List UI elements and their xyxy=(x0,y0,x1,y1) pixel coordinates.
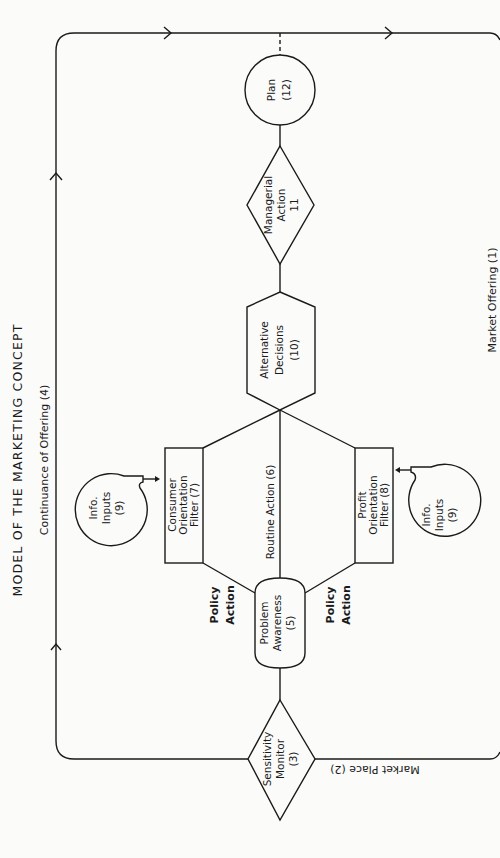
diagram-title: MODEL OF THE MARKETING CONCEPT xyxy=(10,323,25,596)
svg-text:Policy: Policy xyxy=(324,587,337,624)
managerial-action-node: Managerial Action 11 xyxy=(247,146,314,264)
marketing-concept-diagram: MODEL OF THE MARKETING CONCEPT Continuan… xyxy=(0,0,500,858)
svg-text:(12): (12) xyxy=(280,79,292,101)
svg-text:Awareness: Awareness xyxy=(271,595,283,651)
svg-text:Inputs: Inputs xyxy=(433,499,445,532)
svg-text:(3): (3) xyxy=(287,752,299,767)
plan-node: Plan (12) xyxy=(245,55,315,125)
info-inputs-right-node: Info. Inputs (9) xyxy=(395,464,481,536)
svg-text:Action: Action xyxy=(340,585,353,624)
svg-text:Policy: Policy xyxy=(208,587,221,624)
svg-text:Decisions: Decisions xyxy=(273,325,285,375)
svg-text:Monitor: Monitor xyxy=(274,738,286,779)
svg-text:Info.: Info. xyxy=(87,496,99,519)
continuance-label: Continuance of Offering (4) xyxy=(38,385,51,535)
svg-text:Alternative: Alternative xyxy=(258,321,270,379)
svg-text:(5): (5) xyxy=(284,616,296,631)
routine-action-label: Routine Action (6) xyxy=(264,465,276,560)
svg-text:Sensitivity: Sensitivity xyxy=(261,732,273,787)
arrow-left-icon xyxy=(395,467,400,473)
svg-text:(10): (10) xyxy=(288,339,300,361)
svg-text:Plan: Plan xyxy=(265,79,277,101)
svg-text:(9): (9) xyxy=(113,501,125,516)
market-place-label: Market Place (2) xyxy=(330,763,420,776)
svg-text:Info.: Info. xyxy=(420,503,432,526)
arrow-right-icon xyxy=(155,476,160,482)
alternative-decisions-node: Alternative Decisions (10) xyxy=(247,292,315,410)
svg-text:Inputs: Inputs xyxy=(100,492,112,525)
sensitivity-monitor-node: Sensitivity Monitor (3) xyxy=(248,700,315,820)
info-inputs-left-node: Info. Inputs (9) xyxy=(75,474,160,546)
svg-text:(9): (9) xyxy=(446,508,458,523)
svg-text:Action: Action xyxy=(275,189,287,222)
market-offering-label: Market Offering (1) xyxy=(486,248,499,353)
problem-awareness-node: Problem Awareness (5) xyxy=(255,578,305,668)
policy-action-right-label: Policy Action xyxy=(324,585,353,624)
svg-text:Filter (8): Filter (8) xyxy=(378,483,390,527)
svg-text:Action: Action xyxy=(224,585,237,624)
svg-text:Problem: Problem xyxy=(258,602,270,645)
svg-text:11: 11 xyxy=(288,198,300,211)
svg-text:Filter (7): Filter (7) xyxy=(188,483,200,527)
svg-text:Managerial: Managerial xyxy=(262,176,274,234)
consumer-orientation-filter-node: Consumer Orientation Filter (7) xyxy=(165,448,203,563)
policy-action-left-label: Policy Action xyxy=(208,585,237,624)
profit-orientation-filter-node: Profit Orientation Filter (8) xyxy=(355,448,393,563)
